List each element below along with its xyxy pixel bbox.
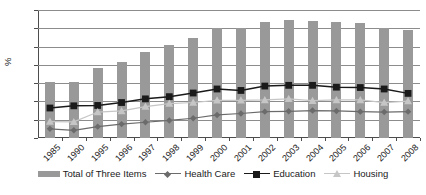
x-tick-mark xyxy=(205,138,206,141)
plot-area: 05101520253035 Health Care 1985: 2.5Heal… xyxy=(38,10,420,138)
legend-label: Housing xyxy=(353,168,388,179)
data-point-marker: Health Care 1990: 2.1 xyxy=(71,127,77,133)
data-point-marker: Education 1995: 8.9 xyxy=(94,102,101,109)
line-series-housing: Housing 1985: 4.5Housing 1990: 4.4Housin… xyxy=(46,95,412,125)
x-tick-mark xyxy=(157,138,158,141)
data-point-marker: Education 2005: 13.9 xyxy=(333,84,340,91)
legend-item-education[interactable]: Education xyxy=(244,168,315,179)
data-point-marker: Education 1999: 12.3 xyxy=(190,90,197,97)
y-axis-title: % xyxy=(2,58,13,66)
data-point-marker: Education 2003: 14.4 xyxy=(285,82,292,89)
x-tick-mark xyxy=(277,138,278,141)
data-point-marker: Education 2002: 14.2 xyxy=(261,83,268,90)
data-point-marker: Education 1990: 8.8 xyxy=(70,102,77,109)
data-point-marker: Health Care 2001: 6.7 xyxy=(238,110,244,116)
data-point-marker: Health Care 1985: 2.5 xyxy=(47,126,53,132)
data-point-marker: Health Care 2005: 7.4 xyxy=(333,108,339,114)
data-point-marker: Education 1998: 11.3 xyxy=(166,93,173,100)
x-tick-mark xyxy=(181,138,182,141)
data-point-marker: Education 1985: 8.2 xyxy=(47,105,54,112)
legend-line-swatch xyxy=(155,169,181,178)
x-tick-mark xyxy=(253,138,254,141)
data-point-marker: Health Care 2003: 7.3 xyxy=(285,108,291,114)
line-series-education: Education 1985: 8.2Education 1990: 8.8Ed… xyxy=(47,82,412,111)
data-point-marker: Health Care 2008: 7.2 xyxy=(405,108,411,114)
legend-item-housing[interactable]: Housing xyxy=(324,168,388,179)
legend-label: Total of Three Items xyxy=(63,168,147,179)
legend-line-swatch xyxy=(324,169,350,178)
data-point-marker: Education 1997: 10.7 xyxy=(142,95,149,102)
x-tick-mark xyxy=(372,138,373,141)
data-point-marker: Health Care 2007: 7.1 xyxy=(381,109,387,115)
data-point-marker: Education 2008: 12.2 xyxy=(405,90,412,97)
chart-figure: % 05101520253035 Health Care 1985: 2.5He… xyxy=(0,0,426,195)
data-point-marker: Health Care 1995: 3.1 xyxy=(94,123,100,129)
x-tick-mark xyxy=(229,138,230,141)
data-point-marker: Health Care 1997: 4.3 xyxy=(142,119,148,125)
line-path xyxy=(50,99,408,122)
data-point-marker: Health Care 1999: 5.4 xyxy=(190,115,196,121)
data-point-marker: Education 2001: 13 xyxy=(238,87,245,94)
data-point-marker: Health Care 1998: 4.8 xyxy=(166,117,172,123)
x-tick-mark xyxy=(134,138,135,141)
y-tick-mark xyxy=(34,138,38,139)
data-point-marker: Education 2007: 13.4 xyxy=(381,86,388,93)
x-tick-mark xyxy=(110,138,111,141)
data-point-marker: Health Care 2006: 7.2 xyxy=(357,108,363,114)
data-point-marker: Health Care 2000: 6.3 xyxy=(214,112,220,118)
legend-bar-swatch xyxy=(38,171,60,177)
x-tick-mark xyxy=(396,138,397,141)
data-point-marker: Education 2006: 13.8 xyxy=(357,84,364,91)
legend-marker-square-icon xyxy=(253,171,260,178)
legend-item-health-care[interactable]: Health Care xyxy=(155,168,235,179)
legend-label: Health Care xyxy=(184,168,235,179)
data-point-marker: Education 1996: 9.7 xyxy=(118,99,125,106)
legend-line-swatch xyxy=(244,169,270,178)
data-point-marker: Education 2000: 13.4 xyxy=(214,86,221,93)
legend-marker-triangle-icon xyxy=(333,170,341,177)
x-tick-mark xyxy=(86,138,87,141)
data-point-marker: Health Care 2004: 7.5 xyxy=(309,107,315,113)
line-series-layer: Health Care 1985: 2.5Health Care 1990: 2… xyxy=(38,10,420,138)
x-tick-mark xyxy=(301,138,302,141)
data-point-marker: Education 2004: 14.4 xyxy=(309,82,316,89)
x-tick-mark xyxy=(325,138,326,141)
legend-item-total-of-three-items[interactable]: Total of Three Items xyxy=(38,168,147,179)
x-tick-mark xyxy=(420,138,421,141)
legend-label: Education xyxy=(273,168,315,179)
x-tick-mark xyxy=(62,138,63,141)
x-tick-mark xyxy=(348,138,349,141)
chart-legend: Total of Three ItemsHealth CareEducation… xyxy=(0,168,426,179)
data-point-marker: Health Care 2002: 7.2 xyxy=(262,108,268,114)
line-path xyxy=(50,85,408,108)
line-path xyxy=(50,111,408,131)
data-point-marker: Health Care 1996: 3.8 xyxy=(118,121,124,127)
